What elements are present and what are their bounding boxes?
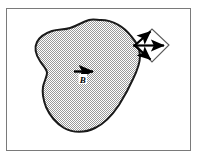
figure-container: B Vector field flux through a surface el… <box>0 0 198 158</box>
field-vector-label: B <box>79 75 86 85</box>
physics-diagram: B <box>0 0 198 158</box>
